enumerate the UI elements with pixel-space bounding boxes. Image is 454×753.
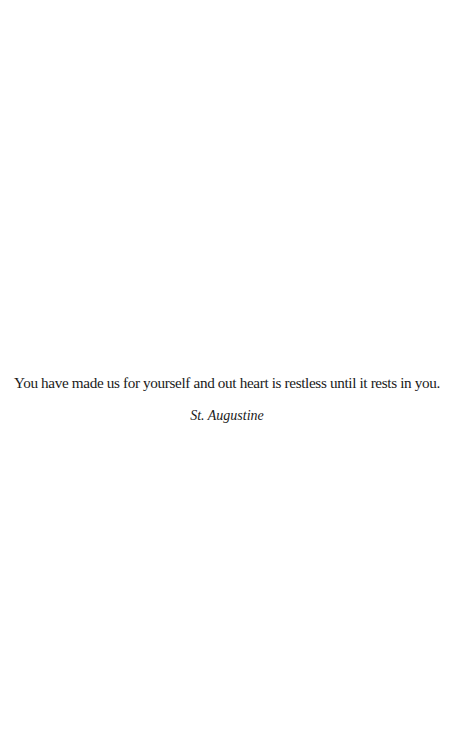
quote-author: St. Augustine [0,407,454,425]
quote-page: You have made us for yourself and out he… [0,0,454,753]
quote-text: You have made us for yourself and out he… [0,373,454,393]
